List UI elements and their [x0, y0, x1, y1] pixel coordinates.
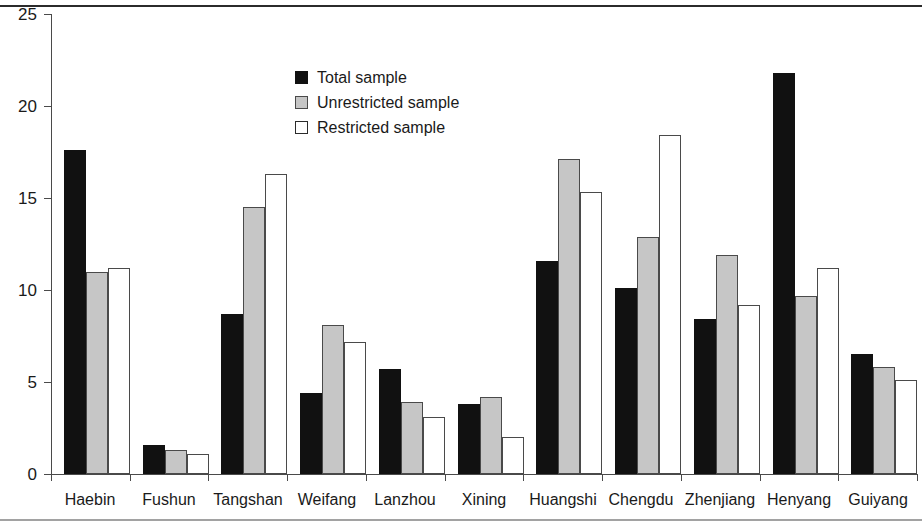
bar-restricted: [344, 342, 366, 474]
x-axis-label-weifang: Weifang: [298, 492, 356, 508]
y-axis-tick-label: 25: [0, 6, 37, 23]
y-axis-tick-label: 0: [0, 466, 37, 483]
bar-unrestricted: [558, 159, 580, 474]
bar-total: [379, 369, 401, 474]
bar-unrestricted: [873, 367, 895, 474]
y-axis-tick: [44, 14, 51, 15]
bar-restricted: [895, 380, 917, 474]
y-axis-tick: [44, 106, 51, 107]
legend-swatch-icon: [295, 96, 308, 109]
x-axis-label-fushun: Fushun: [142, 492, 195, 508]
bar-group: [51, 14, 130, 474]
x-axis-tick: [366, 474, 367, 481]
bar-unrestricted: [86, 272, 108, 474]
legend-swatch-icon: [295, 71, 308, 84]
x-axis-label-lanzhou: Lanzhou: [374, 492, 435, 508]
bar-chart: 0510152025 HaebinFushunTangshanWeifangLa…: [0, 0, 922, 521]
x-axis-label-tangshan: Tangshan: [213, 492, 282, 508]
bar-total: [536, 261, 558, 474]
y-axis-tick: [44, 382, 51, 383]
x-axis-tick: [523, 474, 524, 481]
x-axis-label-xining: Xining: [462, 492, 506, 508]
x-axis-tick: [208, 474, 209, 481]
legend-swatch-icon: [295, 121, 308, 134]
bar-total: [773, 73, 795, 474]
y-axis-tick-label: 5: [0, 374, 37, 391]
bar-total: [64, 150, 86, 474]
bar-total: [851, 354, 873, 474]
x-axis-label-guiyang: Guiyang: [848, 492, 908, 508]
bar-restricted: [423, 417, 445, 474]
x-axis-tick: [130, 474, 131, 481]
bar-restricted: [738, 305, 760, 474]
y-axis-tick: [44, 474, 51, 475]
bar-unrestricted: [243, 207, 265, 474]
bar-restricted: [817, 268, 839, 474]
legend-item: Restricted sample: [295, 115, 459, 140]
y-axis-tick-label: 15: [0, 190, 37, 207]
legend-item: Total sample: [295, 65, 459, 90]
bar-restricted: [265, 174, 287, 474]
chart-legend: Total sampleUnrestricted sampleRestricte…: [295, 65, 459, 140]
x-axis-line: [51, 474, 917, 475]
bar-group: [523, 14, 602, 474]
x-axis-label-henyang: Henyang: [767, 492, 831, 508]
plot-area: [51, 14, 917, 474]
bar-unrestricted: [401, 402, 423, 474]
bar-group: [130, 14, 209, 474]
bar-restricted: [659, 135, 681, 474]
y-axis-tick: [44, 198, 51, 199]
x-axis-label-haebin: Haebin: [65, 492, 116, 508]
x-axis-tick: [602, 474, 603, 481]
bar-unrestricted: [716, 255, 738, 474]
bar-unrestricted: [637, 237, 659, 474]
x-axis-tick: [917, 474, 918, 481]
legend-item-label: Restricted sample: [317, 120, 445, 136]
x-axis-tick: [445, 474, 446, 481]
x-axis-tick: [760, 474, 761, 481]
y-axis-tick-label: 10: [0, 282, 37, 299]
bar-total: [143, 445, 165, 474]
x-axis-label-zhenjiang: Zhenjiang: [685, 492, 755, 508]
bar-total: [458, 404, 480, 474]
x-axis-tick: [287, 474, 288, 481]
bar-restricted: [580, 192, 602, 474]
bar-group: [602, 14, 681, 474]
bar-restricted: [187, 454, 209, 474]
bar-restricted: [108, 268, 130, 474]
bar-group: [208, 14, 287, 474]
bar-total: [300, 393, 322, 474]
bar-unrestricted: [480, 397, 502, 474]
bar-group: [681, 14, 760, 474]
legend-item-label: Total sample: [317, 70, 407, 86]
bar-group: [760, 14, 839, 474]
bar-group: [838, 14, 917, 474]
x-axis-tick: [681, 474, 682, 481]
legend-item: Unrestricted sample: [295, 90, 459, 115]
bar-unrestricted: [165, 450, 187, 474]
x-axis-tick: [838, 474, 839, 481]
scan-artifact-line-top: [0, 5, 922, 7]
x-axis-label-huangshi: Huangshi: [529, 492, 597, 508]
legend-item-label: Unrestricted sample: [317, 95, 459, 111]
bar-total: [221, 314, 243, 474]
bar-total: [694, 319, 716, 474]
bar-restricted: [502, 437, 524, 474]
bar-unrestricted: [322, 325, 344, 474]
bar-total: [615, 288, 637, 474]
y-axis-tick-label: 20: [0, 98, 37, 115]
y-axis-tick: [44, 290, 51, 291]
bar-unrestricted: [795, 296, 817, 474]
x-axis-tick: [51, 474, 52, 481]
x-axis-label-chengdu: Chengdu: [609, 492, 674, 508]
